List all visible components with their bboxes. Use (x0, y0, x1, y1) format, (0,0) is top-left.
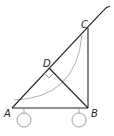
wheel-right-icon (72, 113, 86, 127)
label-c: C (81, 19, 88, 30)
right-angle-marker (44, 73, 54, 78)
stroller-diagram: A B C D (0, 0, 114, 136)
label-b: B (91, 108, 98, 119)
label-d: D (43, 58, 51, 69)
segment-ac-handle (12, 6, 110, 108)
label-a: A (3, 108, 11, 119)
wheel-left-icon (17, 113, 31, 127)
